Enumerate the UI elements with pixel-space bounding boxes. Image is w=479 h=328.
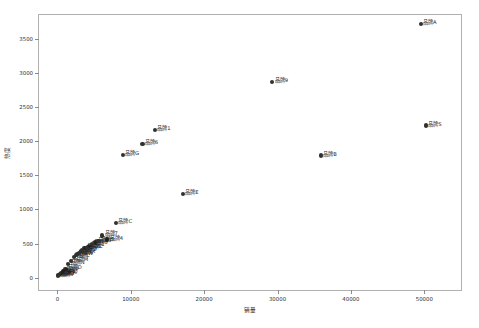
x-tick-mark bbox=[278, 290, 279, 294]
x-tick-label: 0 bbox=[56, 296, 59, 302]
data-point-label: 品牌V bbox=[60, 269, 74, 276]
x-tick-label: 40000 bbox=[342, 296, 359, 302]
x-tick-mark bbox=[351, 290, 352, 294]
y-tick-label: 2500 bbox=[19, 104, 33, 110]
x-tick-label: 20000 bbox=[196, 296, 213, 302]
y-tick-label: 1000 bbox=[19, 206, 33, 212]
data-point-label: 品牌C bbox=[118, 217, 132, 224]
data-point-label: 品牌5 bbox=[101, 234, 114, 241]
scatter-chart-figure: 0500100015002000250030003500 01000020000… bbox=[0, 0, 479, 328]
data-point-label: 品牌9 bbox=[275, 75, 288, 82]
x-tick-label: 50000 bbox=[416, 296, 433, 302]
x-tick-mark bbox=[131, 290, 132, 294]
data-point-label: 品牌1 bbox=[157, 123, 170, 130]
y-tick-label: 500 bbox=[23, 241, 33, 247]
y-axis-title-text: 热度 bbox=[3, 147, 11, 159]
data-point-label: 品牌A bbox=[423, 17, 437, 24]
x-tick-label: 10000 bbox=[122, 296, 139, 302]
plot-area: 0500100015002000250030003500 01000020000… bbox=[38, 14, 462, 291]
y-axis-title: 热度 bbox=[2, 14, 12, 291]
x-tick-mark bbox=[57, 290, 58, 294]
data-point-label: 品牌S bbox=[428, 119, 441, 126]
y-tick-label: 3500 bbox=[19, 36, 33, 42]
y-tick-label: 3000 bbox=[19, 70, 33, 76]
y-tick-label: 2000 bbox=[19, 138, 33, 144]
y-tick-label: 0 bbox=[30, 275, 33, 281]
data-point-label: 品牌G bbox=[125, 148, 139, 155]
data-points-layer: 品牌A品牌S品牌9品牌B品牌1品牌6品牌G品牌E品牌C品牌7品牌4品牌3品牌1品… bbox=[39, 15, 461, 290]
data-point-label: 品牌E bbox=[185, 187, 198, 194]
x-axis-title: 销量 bbox=[38, 306, 462, 314]
data-point-label: 品牌6 bbox=[145, 138, 158, 145]
x-tick-mark bbox=[204, 290, 205, 294]
x-tick-mark bbox=[424, 290, 425, 294]
x-tick-label: 30000 bbox=[269, 296, 286, 302]
y-tick-label: 1500 bbox=[19, 172, 33, 178]
data-point-label: 品牌B bbox=[323, 149, 337, 156]
